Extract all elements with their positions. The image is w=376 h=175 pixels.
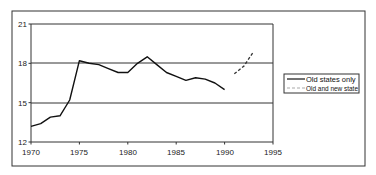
- x-label-1980: 1980: [119, 148, 137, 157]
- y-label-18: 18: [18, 59, 27, 68]
- legend-label-old-states: Old states only: [306, 75, 356, 84]
- y-label-21: 21: [18, 20, 27, 29]
- legend: Old states only Old and new state: [284, 74, 359, 93]
- x-label-1970: 1970: [22, 148, 40, 157]
- y-label-15: 15: [18, 99, 27, 108]
- chart: 21 18 15 12 1970 1975 1980 1985 1990 199…: [0, 0, 376, 175]
- x-label-1985: 1985: [167, 148, 185, 157]
- x-label-1975: 1975: [70, 148, 88, 157]
- legend-label-old-and-new: Old and new state: [306, 84, 358, 93]
- x-label-1990: 1990: [216, 148, 234, 157]
- x-label-1995: 1995: [264, 148, 282, 157]
- y-label-12: 12: [18, 138, 27, 147]
